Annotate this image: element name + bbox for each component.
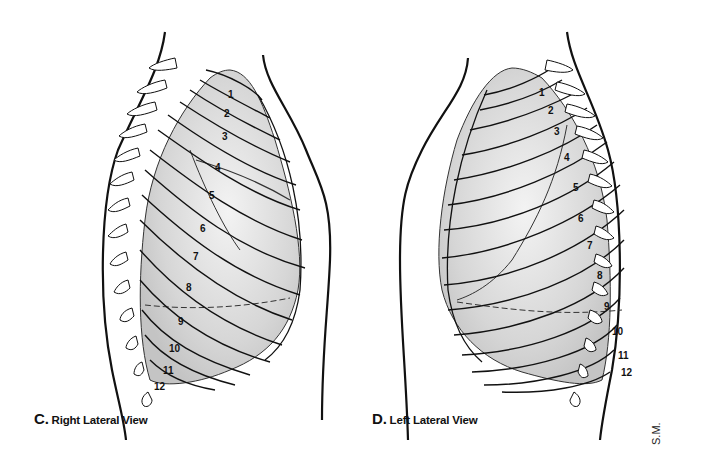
rib-label-9: 9 — [178, 316, 184, 327]
rib-label-12: 12 — [621, 367, 632, 378]
rib-label-1: 1 — [228, 89, 234, 100]
rib-label-11: 11 — [618, 350, 629, 361]
right-lateral-thorax-illustration — [0, 0, 362, 470]
rib-label-4: 4 — [215, 162, 221, 173]
caption-title: Left Lateral View — [390, 414, 478, 426]
rib-label-12: 12 — [154, 381, 165, 392]
caption-title: Right Lateral View — [52, 414, 148, 426]
rib-label-8: 8 — [186, 282, 192, 293]
rib-label-3: 3 — [554, 126, 560, 137]
rib-label-8: 8 — [597, 270, 603, 281]
rib-label-6: 6 — [200, 223, 206, 234]
rib-label-4: 4 — [564, 152, 570, 163]
left-lateral-view-panel: 1 2 3 4 5 6 7 8 9 10 11 12 D.Left Latera… — [362, 0, 724, 470]
rib-label-3: 3 — [222, 131, 228, 142]
rib-label-10: 10 — [169, 343, 180, 354]
rib-label-6: 6 — [578, 213, 584, 224]
rib-label-2: 2 — [548, 105, 554, 116]
caption-left-lateral-view: D.Left Lateral View — [372, 410, 477, 428]
caption-right-lateral-view: C.Right Lateral View — [34, 410, 148, 428]
rib-label-7: 7 — [587, 240, 593, 251]
rib-label-9: 9 — [604, 301, 610, 312]
right-lung-shape — [140, 70, 300, 384]
caption-letter: C. — [34, 410, 49, 427]
caption-letter: D. — [372, 410, 387, 427]
rib-label-5: 5 — [209, 190, 215, 201]
rib-label-5: 5 — [573, 182, 579, 193]
rib-label-1: 1 — [539, 87, 545, 98]
artist-signature: S.M. — [650, 422, 662, 445]
right-lateral-view-panel: 1 2 3 4 5 6 7 8 9 10 11 12 C.Right Later… — [0, 0, 362, 470]
rib-label-2: 2 — [224, 108, 230, 119]
rib-label-11: 11 — [163, 365, 174, 376]
left-lateral-thorax-illustration — [362, 0, 724, 470]
rib-label-7: 7 — [193, 251, 199, 262]
rib-label-10: 10 — [612, 326, 623, 337]
